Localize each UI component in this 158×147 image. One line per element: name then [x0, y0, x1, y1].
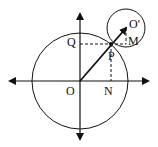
label-m: M [128, 34, 139, 48]
label-o-prime: O' [129, 17, 140, 31]
line-o-o2 [80, 28, 126, 81]
label-q: Q [67, 35, 76, 49]
label-n: N [104, 84, 113, 98]
label-p: P [108, 49, 115, 63]
point-p [109, 42, 113, 46]
label-o: O [66, 84, 75, 98]
geometry-diagram: O O' P Q M N [0, 0, 158, 147]
